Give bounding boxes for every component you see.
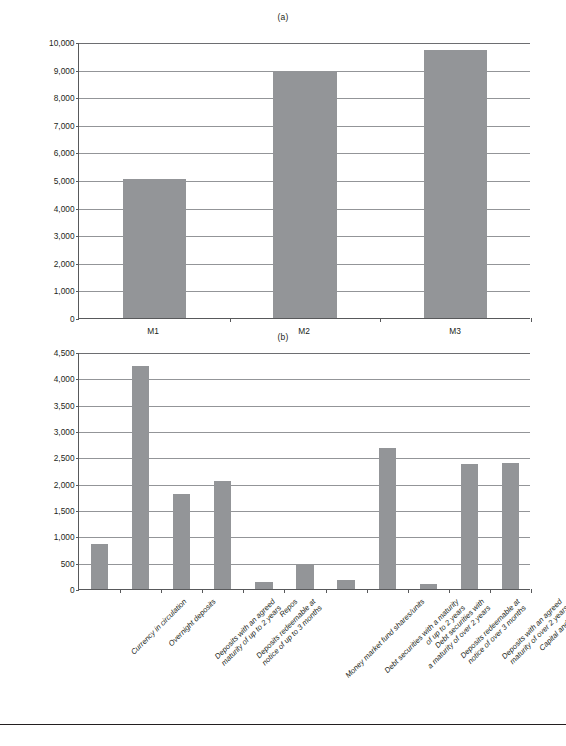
x-axis-tick-mark	[531, 589, 532, 593]
bar	[255, 582, 272, 589]
x-axis-tick-mark	[490, 589, 491, 593]
x-axis-tick-mark	[531, 318, 532, 322]
bar	[173, 494, 190, 589]
panel-b-plot-area: 05001,0001,5002,0002,5003,0003,5004,0004…	[78, 353, 530, 590]
figure-bottom-rule	[0, 724, 566, 725]
y-axis-tick-label: 9,000	[54, 66, 79, 74]
y-axis-tick-label: 1,500	[54, 507, 79, 515]
y-axis-tick-label: 3,000	[54, 232, 79, 240]
bar	[123, 179, 186, 318]
y-axis-tick-label: 4,000	[54, 204, 79, 212]
bar	[296, 565, 313, 589]
gridline	[79, 353, 530, 354]
panel-a: (a) 01,0002,0003,0004,0005,0006,0007,000…	[0, 8, 566, 328]
x-axis-tick-mark	[380, 318, 381, 322]
y-axis-tick-label: 2,500	[54, 454, 79, 462]
x-axis-tick-mark	[449, 589, 450, 593]
bar	[461, 464, 478, 589]
x-axis-tick-mark	[367, 589, 368, 593]
panel-b: (b) 05001,0001,5002,0002,5003,0003,5004,…	[0, 330, 566, 710]
bar	[214, 481, 231, 589]
bar	[502, 463, 519, 589]
x-axis-tick-mark	[284, 589, 285, 593]
gridline	[79, 43, 530, 44]
y-axis-tick-label: 5,000	[54, 177, 79, 185]
y-axis-tick-label: 3,500	[54, 402, 79, 410]
y-axis-tick-label: 4,500	[54, 349, 79, 357]
panel-a-title: (a)	[0, 12, 566, 22]
figure-page: (a) 01,0002,0003,0004,0005,0006,0007,000…	[0, 0, 566, 746]
bar	[273, 72, 336, 318]
bar	[420, 584, 437, 589]
x-axis-tick-mark	[326, 589, 327, 593]
panel-b-title: (b)	[0, 332, 566, 342]
y-axis-tick-label: 6,000	[54, 149, 79, 157]
y-axis-tick-label: 500	[61, 560, 79, 568]
x-axis-tick-mark	[161, 589, 162, 593]
bar	[379, 448, 396, 589]
y-axis-tick-label: 1,000	[54, 287, 79, 295]
y-axis-tick-label: 3,000	[54, 428, 79, 436]
bar	[424, 50, 487, 318]
x-axis-tick-mark	[202, 589, 203, 593]
panel-a-plot-area: 01,0002,0003,0004,0005,0006,0007,0008,00…	[78, 43, 530, 319]
y-axis-tick-label: 0	[70, 586, 79, 594]
y-axis-tick-label: 7,000	[54, 122, 79, 130]
x-axis-tick-mark	[230, 318, 231, 322]
bar	[337, 580, 354, 589]
y-axis-tick-label: 4,000	[54, 375, 79, 383]
bar	[91, 544, 108, 589]
x-axis-tick-mark	[243, 589, 244, 593]
y-axis-tick-label: 8,000	[54, 94, 79, 102]
x-axis-tick-mark	[120, 589, 121, 593]
x-axis-category-label: Currency in circulation	[129, 597, 189, 657]
bar	[132, 366, 149, 589]
y-axis-tick-label: 2,000	[54, 481, 79, 489]
x-axis-tick-mark	[408, 589, 409, 593]
y-axis-tick-label: 2,000	[54, 260, 79, 268]
y-axis-tick-label: 10,000	[49, 39, 79, 47]
y-axis-tick-label: 1,000	[54, 533, 79, 541]
y-axis-tick-label: 0	[70, 315, 79, 323]
